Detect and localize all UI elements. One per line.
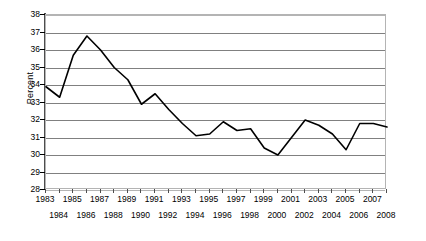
x-tick-mark-2008 xyxy=(386,189,387,193)
y-tick-label-36: 36 xyxy=(31,45,40,53)
y-tick-mark-37 xyxy=(40,32,45,33)
x-tick-mark-2001 xyxy=(291,189,292,193)
x-tick-mark-1983 xyxy=(45,189,46,193)
x-tick-label-1995: 1995 xyxy=(199,194,218,204)
y-tick-mark-33 xyxy=(40,102,45,103)
x-tick-mark-2007 xyxy=(372,189,373,193)
x-tick-mark-1990 xyxy=(140,189,141,193)
x-tick-mark-1992 xyxy=(168,189,169,193)
y-tick-label-32: 32 xyxy=(31,115,40,123)
x-tick-mark-1991 xyxy=(154,189,155,193)
y-tick-label-37: 37 xyxy=(31,28,40,36)
x-tick-mark-1986 xyxy=(86,189,87,193)
x-tick-label-1990: 1990 xyxy=(131,210,150,220)
x-tick-mark-1997 xyxy=(236,189,237,193)
y-tick-mark-36 xyxy=(40,49,45,50)
x-tick-label-1997: 1997 xyxy=(226,194,245,204)
x-tick-mark-1988 xyxy=(113,189,114,193)
x-tick-label-2004: 2004 xyxy=(322,210,341,220)
x-tick-mark-1984 xyxy=(59,189,60,193)
y-tick-label-33: 33 xyxy=(31,98,40,106)
y-tick-mark-32 xyxy=(40,119,45,120)
x-tick-mark-1985 xyxy=(72,189,73,193)
data-series-line xyxy=(46,15,387,190)
x-tick-label-1983: 1983 xyxy=(36,194,55,204)
x-tick-label-1994: 1994 xyxy=(186,210,205,220)
y-tick-label-31: 31 xyxy=(31,133,40,141)
x-tick-mark-1995 xyxy=(209,189,210,193)
y-tick-mark-29 xyxy=(40,172,45,173)
x-tick-label-2008: 2008 xyxy=(377,210,396,220)
x-tick-mark-1993 xyxy=(181,189,182,193)
plot-area xyxy=(45,14,386,189)
x-tick-mark-2000 xyxy=(277,189,278,193)
y-tick-mark-30 xyxy=(40,154,45,155)
x-tick-mark-1998 xyxy=(250,189,251,193)
x-tick-label-1986: 1986 xyxy=(76,210,95,220)
x-tick-label-1985: 1985 xyxy=(63,194,82,204)
x-tick-label-1993: 1993 xyxy=(172,194,191,204)
x-tick-mark-2004 xyxy=(331,189,332,193)
line-chart-figure: Percent 3837363534333231302928 198319841… xyxy=(0,0,426,241)
x-axis-tick-labels: 1983198419851986198719881989199019911992… xyxy=(0,194,426,240)
y-tick-mark-28 xyxy=(40,189,45,190)
x-tick-label-2000: 2000 xyxy=(267,210,286,220)
x-tick-label-1998: 1998 xyxy=(240,210,259,220)
y-tick-label-34: 34 xyxy=(31,80,40,88)
y-tick-mark-34 xyxy=(40,84,45,85)
x-tick-mark-2002 xyxy=(304,189,305,193)
x-tick-label-1987: 1987 xyxy=(90,194,109,204)
x-tick-label-1984: 1984 xyxy=(49,210,68,220)
y-axis-tick-labels: 3837363534333231302928 xyxy=(22,14,40,189)
y-tick-mark-31 xyxy=(40,137,45,138)
x-tick-label-1988: 1988 xyxy=(104,210,123,220)
x-tick-mark-1994 xyxy=(195,189,196,193)
x-tick-mark-2003 xyxy=(318,189,319,193)
x-tick-mark-1996 xyxy=(222,189,223,193)
x-tick-mark-2006 xyxy=(359,189,360,193)
x-tick-label-2007: 2007 xyxy=(363,194,382,204)
x-tick-label-1999: 1999 xyxy=(254,194,273,204)
x-tick-label-2001: 2001 xyxy=(281,194,300,204)
x-tick-label-1996: 1996 xyxy=(213,210,232,220)
x-tick-label-1992: 1992 xyxy=(158,210,177,220)
x-tick-label-1991: 1991 xyxy=(145,194,164,204)
y-tick-label-29: 29 xyxy=(31,168,40,176)
x-tick-mark-2005 xyxy=(345,189,346,193)
y-tick-mark-35 xyxy=(40,67,45,68)
y-tick-mark-38 xyxy=(40,14,45,15)
y-tick-label-38: 38 xyxy=(31,10,40,18)
x-tick-label-2003: 2003 xyxy=(308,194,327,204)
y-tick-label-28: 28 xyxy=(31,185,40,193)
x-tick-mark-1989 xyxy=(127,189,128,193)
x-axis-tick-marks xyxy=(45,189,386,193)
x-tick-mark-1987 xyxy=(100,189,101,193)
x-tick-label-2002: 2002 xyxy=(295,210,314,220)
x-tick-mark-1999 xyxy=(263,189,264,193)
y-tick-label-30: 30 xyxy=(31,150,40,158)
y-tick-label-35: 35 xyxy=(31,63,40,71)
x-tick-label-2005: 2005 xyxy=(336,194,355,204)
x-tick-label-1989: 1989 xyxy=(117,194,136,204)
x-tick-label-2006: 2006 xyxy=(349,210,368,220)
